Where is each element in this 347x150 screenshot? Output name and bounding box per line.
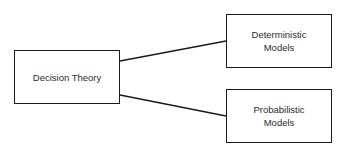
node-label-line1: Probabilistic [253,103,304,116]
node-label-line2: Models [264,41,295,54]
node-decision-theory: Decision Theory [14,50,120,104]
node-deterministic-models: Deterministic Models [226,14,332,68]
edge-decision-to-probabilistic [120,95,226,116]
node-label-line2: Models [264,116,295,129]
diagram-canvas: Decision Theory Deterministic Models Pro… [0,0,347,150]
node-label-line1: Deterministic [252,28,307,41]
edge-decision-to-deterministic [120,41,226,61]
node-label: Decision Theory [33,71,101,84]
node-probabilistic-models: Probabilistic Models [226,89,332,143]
